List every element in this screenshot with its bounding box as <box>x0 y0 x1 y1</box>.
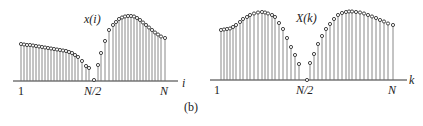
stem-marker <box>111 23 114 26</box>
stem-marker <box>312 52 315 55</box>
stem-marker <box>103 39 106 42</box>
stem-marker <box>96 63 99 66</box>
stem-marker <box>366 13 369 16</box>
stem-marker <box>386 22 389 25</box>
stem-marker <box>234 23 237 26</box>
stem-marker <box>153 31 156 34</box>
stem-marker <box>147 26 150 29</box>
stem-marker <box>270 13 273 16</box>
stem-marker <box>332 17 335 20</box>
stem-marker <box>73 53 76 56</box>
stem-marker <box>70 51 73 54</box>
stem-marker <box>252 12 255 15</box>
stem-marker <box>76 55 79 58</box>
stem-marker <box>92 78 95 81</box>
stem-marker <box>114 20 117 23</box>
stem-marker <box>141 21 144 24</box>
stem-marker <box>99 51 102 54</box>
stem-marker <box>273 15 276 18</box>
tick-label-n: N <box>160 85 168 97</box>
stem-marker <box>354 10 357 13</box>
stem-marker <box>238 20 241 23</box>
stem-marker <box>87 66 90 69</box>
stem-marker <box>241 17 244 20</box>
stem-plot-figure <box>0 0 423 126</box>
stem-marker <box>150 28 153 31</box>
stem-marker <box>156 33 159 36</box>
stem-marker <box>370 15 373 18</box>
stem-marker <box>277 21 280 24</box>
tick-label-1: 1 <box>18 85 24 97</box>
stem-marker <box>340 11 343 14</box>
stem-marker <box>245 15 248 18</box>
stem-marker <box>248 13 251 16</box>
stem-marker <box>316 42 319 45</box>
stem-marker <box>80 59 83 62</box>
stem-marker <box>350 10 353 13</box>
plot-title-x-of-i: x(i) <box>84 13 101 25</box>
stem-marker <box>138 18 141 21</box>
stem-marker <box>328 22 331 25</box>
stem-marker <box>320 34 323 37</box>
stem-marker <box>135 16 138 19</box>
stem-marker <box>293 53 296 56</box>
x-axis-label-i: i <box>182 77 185 89</box>
stem-marker <box>163 36 166 39</box>
stem-marker <box>266 12 269 15</box>
figure-caption: (b) <box>184 101 198 113</box>
tick-label-1: 1 <box>214 84 220 96</box>
stem-marker <box>308 61 311 64</box>
stem-marker <box>256 11 259 14</box>
tick-label-n-half: N/2 <box>84 85 101 97</box>
stem-marker <box>84 64 87 67</box>
x-axis-label-k: k <box>409 74 414 86</box>
stem-marker <box>324 27 327 30</box>
stem-marker <box>305 78 308 81</box>
tick-label-n: N <box>388 84 396 96</box>
stem-marker <box>144 23 147 26</box>
stem-marker <box>289 45 292 48</box>
stem-marker <box>107 28 110 31</box>
stem-marker <box>378 18 381 21</box>
stem-marker <box>374 16 377 19</box>
stem-marker <box>336 13 339 16</box>
stem-marker <box>297 62 300 65</box>
stem-marker <box>231 25 234 28</box>
stem-marker <box>281 27 284 30</box>
stem-marker <box>391 23 394 26</box>
tick-label-n-half: N/2 <box>296 84 313 96</box>
stem-marker <box>358 11 361 14</box>
stem-marker <box>159 35 162 38</box>
stem-marker <box>362 12 365 15</box>
stem-marker <box>285 36 288 39</box>
plot-title-x-of-k: X(k) <box>296 12 317 24</box>
stem-marker <box>382 20 385 23</box>
